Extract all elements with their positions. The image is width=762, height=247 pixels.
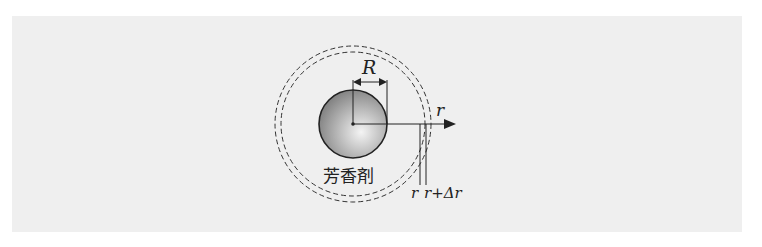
shell-inner-label: r <box>411 184 419 202</box>
axis-r-label: r <box>436 100 445 120</box>
axis-arrow-icon <box>444 119 456 129</box>
shell-outer-label: r+Δr <box>424 184 463 202</box>
diffusion-diagram: R r r r+Δr 芳香剤 <box>0 0 762 247</box>
radius-label: R <box>361 56 376 78</box>
substance-label: 芳香剤 <box>323 166 374 186</box>
